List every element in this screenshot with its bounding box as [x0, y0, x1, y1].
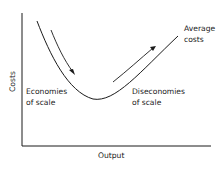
y-axis-label: Costs [8, 71, 17, 92]
curve-label-line2: costs [184, 35, 204, 44]
diseconomies-arrow [113, 48, 153, 82]
economies-label-line2: of scale [26, 98, 56, 107]
cost-curve-diagram: Costs Output Average costs Economies of … [0, 0, 221, 169]
diseconomies-label-line2: of scale [132, 98, 162, 107]
economies-arrow [51, 30, 73, 72]
curve-label-line1: Average [184, 24, 216, 33]
economies-label-line1: Economies [26, 87, 67, 96]
arrow-down-icon [69, 69, 75, 75]
diseconomies-label-line1: Diseconomies [132, 87, 185, 96]
x-axis-label: Output [98, 151, 124, 160]
